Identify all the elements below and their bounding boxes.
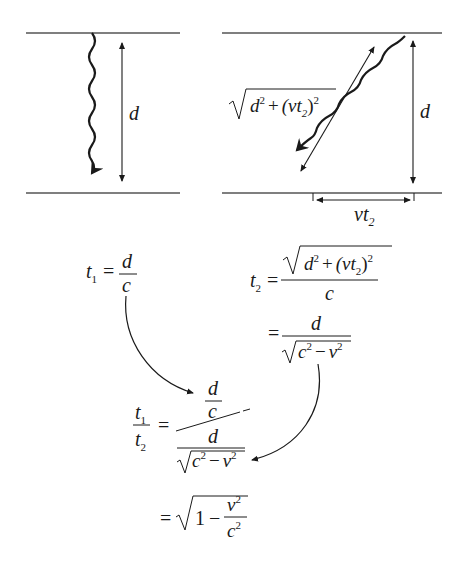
svg-text:d: d xyxy=(208,425,219,447)
label-d-right: d xyxy=(420,100,431,122)
svg-text:=: = xyxy=(268,322,279,344)
svg-text:d: d xyxy=(311,312,322,334)
label-vt2: vt2 xyxy=(354,203,374,229)
svg-text:c: c xyxy=(325,282,334,304)
svg-text:c: c xyxy=(122,274,131,296)
equation-t2: t2= d2+(vt2)2 c xyxy=(250,246,392,304)
svg-text:c: c xyxy=(208,400,217,422)
curved-arrow-t1-to-ratio xyxy=(126,296,193,393)
svg-text:t1: t1 xyxy=(135,401,146,426)
svg-text:d: d xyxy=(122,250,133,272)
equation-t1: t1= d c xyxy=(86,250,137,296)
curved-arrow-t2-to-ratio xyxy=(252,364,319,460)
svg-text:c2: c2 xyxy=(227,519,241,541)
light-path-wavy-diagonal xyxy=(297,36,405,150)
light-path-wavy-vertical xyxy=(89,33,95,173)
svg-text:=: = xyxy=(160,507,171,529)
svg-text:c2−v2: c2−v2 xyxy=(192,449,237,471)
svg-text:d: d xyxy=(208,377,219,399)
label-d-left: d xyxy=(129,102,140,124)
svg-text:1−: 1− xyxy=(195,507,220,529)
svg-text:t2: t2 xyxy=(135,428,146,453)
hypotenuse-label: d2+(vt2)2 xyxy=(229,89,336,119)
svg-text:d2+(vt2)2: d2+(vt2)2 xyxy=(304,252,373,277)
equation-result: = 1− v2 c2 xyxy=(160,493,248,541)
svg-text:t2=: t2= xyxy=(250,269,278,294)
relativity-diagram: d d vt2 d2+(vt2)2 t1= d c t2= d2+(vt2)2 … xyxy=(0,0,464,577)
svg-text:=: = xyxy=(158,414,169,436)
equation-ratio: t1 t2 = d c d c2−v2 xyxy=(133,377,250,473)
left-panel: d xyxy=(26,33,180,193)
right-panel: d vt2 d2+(vt2)2 xyxy=(222,33,442,229)
svg-text:d2+(vt2)2: d2+(vt2)2 xyxy=(250,94,319,119)
equation-t2-simplified: = d c2−v2 xyxy=(268,312,351,363)
svg-text:c2−v2: c2−v2 xyxy=(298,340,343,362)
svg-text:t1=: t1= xyxy=(86,260,114,285)
svg-text:v2: v2 xyxy=(227,493,241,515)
